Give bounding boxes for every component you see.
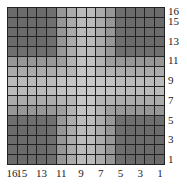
heatmap-cell [28, 145, 37, 154]
heatmap-cell [57, 37, 66, 46]
heatmap-cell [145, 96, 154, 105]
heatmap-cell [87, 136, 96, 145]
heatmap-cell [57, 136, 66, 145]
heatmap-cell [87, 47, 96, 56]
heatmap-cell [57, 67, 66, 76]
heatmap-cell [87, 28, 96, 37]
heatmap-cell [106, 96, 115, 105]
heatmap-cell [106, 145, 115, 154]
heatmap-cell [96, 145, 105, 154]
heatmap-cell [116, 47, 125, 56]
heatmap-cell [37, 106, 46, 115]
heatmap-cell [18, 106, 27, 115]
heatmap-cell [106, 57, 115, 66]
heatmap-cell [87, 18, 96, 27]
x-tick-label: 13 [36, 168, 47, 179]
heatmap-cell [8, 136, 17, 145]
heatmap-cell [96, 126, 105, 135]
heatmap-cell [37, 77, 46, 86]
heatmap-cell [106, 18, 115, 27]
heatmap-cell [116, 136, 125, 145]
x-tick-label: 1 [157, 168, 163, 179]
heatmap-cell [47, 155, 56, 164]
heatmap-cell [77, 8, 86, 17]
heatmap-cell [136, 8, 145, 17]
heatmap-cell [28, 47, 37, 56]
heatmap-cell [8, 116, 17, 125]
heatmap-cell [155, 116, 164, 125]
heatmap-cell [77, 28, 86, 37]
heatmap-cell [116, 116, 125, 125]
heatmap-cell [18, 126, 27, 135]
heatmap-cell [116, 8, 125, 17]
heatmap-cell [8, 28, 17, 37]
heatmap-cell [87, 87, 96, 96]
heatmap-cell [77, 47, 86, 56]
heatmap-cell [67, 67, 76, 76]
heatmap-cell [96, 87, 105, 96]
y-tick-label: 11 [168, 55, 179, 66]
heatmap-cell [106, 126, 115, 135]
heatmap-cell [116, 155, 125, 164]
heatmap-cell [47, 37, 56, 46]
y-tick-label: 3 [168, 134, 174, 145]
heatmap-cell [28, 8, 37, 17]
heatmap-cell [77, 106, 86, 115]
heatmap-cell [136, 126, 145, 135]
x-tick-label: 3 [138, 168, 144, 179]
heatmap-cell [87, 57, 96, 66]
heatmap-cell [145, 155, 154, 164]
heatmap-cell [155, 77, 164, 86]
heatmap-cell [47, 126, 56, 135]
heatmap-cell [116, 77, 125, 86]
heatmap-cell [155, 37, 164, 46]
heatmap-cell [57, 28, 66, 37]
heatmap-cell [47, 96, 56, 105]
heatmap-cell [126, 96, 135, 105]
heatmap-cell [57, 96, 66, 105]
heatmap-cell [77, 155, 86, 164]
heatmap-cell [145, 136, 154, 145]
y-tick-label: 1 [168, 154, 174, 165]
heatmap-cell [96, 47, 105, 56]
heatmap-cell [18, 18, 27, 27]
heatmap-cell [87, 96, 96, 105]
heatmap-cell [47, 77, 56, 86]
heatmap-cell [67, 18, 76, 27]
heatmap-cell [8, 47, 17, 56]
heatmap-cell [106, 87, 115, 96]
heatmap-cell [126, 18, 135, 27]
heatmap-cell [28, 28, 37, 37]
heatmap-cell [155, 8, 164, 17]
heatmap-cell [47, 136, 56, 145]
heatmap-cell [87, 37, 96, 46]
heatmap-cell [37, 136, 46, 145]
heatmap-cell [155, 96, 164, 105]
heatmap-cell [155, 57, 164, 66]
x-tick-label: 7 [98, 168, 104, 179]
heatmap-cell [126, 145, 135, 154]
heatmap-cell [67, 145, 76, 154]
y-tick-label: 13 [168, 36, 179, 47]
heatmap-cell [67, 126, 76, 135]
heatmap-cell [28, 136, 37, 145]
heatmap-cell [145, 116, 154, 125]
heatmap-cell [18, 8, 27, 17]
heatmap-cell [155, 126, 164, 135]
heatmap-cell [67, 8, 76, 17]
heatmap-cell [67, 106, 76, 115]
heatmap-cell [126, 57, 135, 66]
heatmap-cell [106, 77, 115, 86]
heatmap-cell [87, 67, 96, 76]
heatmap-cell [67, 116, 76, 125]
heatmap-grid [7, 7, 165, 165]
heatmap-cell [18, 96, 27, 105]
heatmap-cell [47, 145, 56, 154]
heatmap-cell [116, 145, 125, 154]
heatmap-cell [126, 126, 135, 135]
heatmap-cell [37, 87, 46, 96]
heatmap-cell [77, 67, 86, 76]
heatmap-cell [106, 106, 115, 115]
heatmap-cell [155, 28, 164, 37]
heatmap-cell [116, 18, 125, 27]
